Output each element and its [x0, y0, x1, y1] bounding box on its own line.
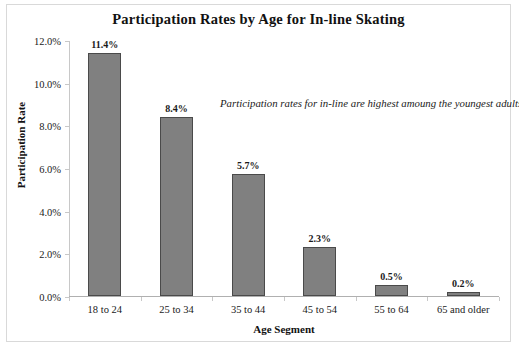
- x-tick-mark: [69, 297, 70, 301]
- y-tick-label: 4.0%: [39, 206, 61, 217]
- bar-value-label: 0.2%: [452, 278, 475, 289]
- bar[interactable]: [232, 174, 265, 296]
- x-tick-label: 25 to 34: [159, 304, 193, 315]
- y-tick-mark: [65, 169, 69, 170]
- x-axis-title: Age Segment: [69, 323, 499, 335]
- chart-annotation: Participation rates for in-line are high…: [220, 97, 510, 109]
- x-tick-label: 65 and older: [437, 304, 490, 315]
- y-axis-title: Participation Rate: [15, 85, 27, 205]
- y-axis-line: [69, 41, 70, 298]
- x-tick-label: 35 to 44: [231, 304, 265, 315]
- chart-title: Participation Rates by Age for In-line S…: [7, 11, 510, 28]
- x-tick-label: 55 to 64: [374, 304, 408, 315]
- y-tick-label: 2.0%: [39, 249, 61, 260]
- x-tick-mark: [356, 297, 357, 301]
- y-tick-label: 0.0%: [39, 292, 61, 303]
- bar[interactable]: [88, 53, 121, 296]
- y-tick-mark: [65, 84, 69, 85]
- x-tick-mark: [284, 297, 285, 301]
- bar[interactable]: [447, 292, 480, 296]
- bar-value-label: 5.7%: [237, 160, 260, 171]
- plot-area: 0.0%2.0%4.0%6.0%8.0%10.0%12.0% 11.4%18 t…: [69, 41, 499, 297]
- x-tick-label: 18 to 24: [88, 304, 122, 315]
- bar[interactable]: [303, 247, 336, 296]
- x-tick-mark: [212, 297, 213, 301]
- x-tick-label: 45 to 54: [303, 304, 337, 315]
- x-tick-mark: [427, 297, 428, 301]
- bar[interactable]: [375, 285, 408, 296]
- x-tick-mark: [499, 297, 500, 301]
- y-tick-label: 6.0%: [39, 164, 61, 175]
- chart-frame: Participation Rates by Age for In-line S…: [6, 4, 511, 342]
- bar-value-label: 0.5%: [380, 271, 403, 282]
- y-tick-label: 8.0%: [39, 121, 61, 132]
- y-tick-mark: [65, 254, 69, 255]
- bar[interactable]: [160, 117, 193, 296]
- y-tick-mark: [65, 212, 69, 213]
- y-tick-mark: [65, 41, 69, 42]
- bar-value-label: 2.3%: [309, 233, 332, 244]
- x-tick-mark: [141, 297, 142, 301]
- y-tick-mark: [65, 126, 69, 127]
- bar-value-label: 8.4%: [165, 103, 188, 114]
- bar-value-label: 11.4%: [91, 39, 118, 50]
- y-tick-label: 12.0%: [34, 36, 61, 47]
- y-tick-label: 10.0%: [34, 78, 61, 89]
